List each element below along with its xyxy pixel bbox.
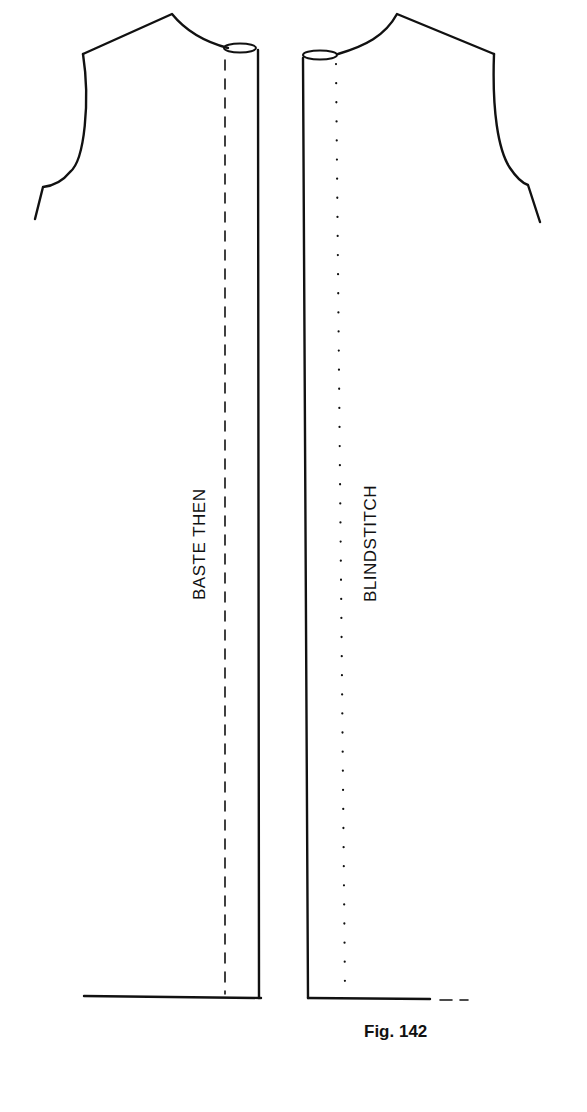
garment-front-diagram [0,0,587,1112]
right-armhole-curve [494,54,540,222]
blindstitch-label: BLINDSTITCH [361,485,381,602]
left-hem-line [84,996,261,998]
left-shoulder-line [83,14,228,54]
right-front-piece [303,14,540,1000]
left-armhole-curve [35,54,86,219]
figure-caption: Fig. 142 [364,1022,427,1042]
blindstitch-dotted-line [336,64,345,990]
left-front-edge [258,50,259,998]
right-shoulder-line [338,14,494,54]
right-front-edge [303,58,308,998]
left-front-piece [35,14,261,998]
right-neck-roll [303,51,337,60]
baste-then-label: BASTE THEN [190,489,210,600]
right-hem-line [308,998,430,999]
